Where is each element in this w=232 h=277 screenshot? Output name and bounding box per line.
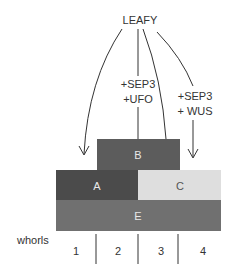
box-a-label: A bbox=[93, 180, 101, 192]
whorls-label: whorls bbox=[16, 234, 49, 246]
whorl-1-label: 1 bbox=[73, 245, 79, 257]
box-e-label: E bbox=[134, 210, 141, 222]
box-b-label: B bbox=[134, 149, 141, 161]
center-cofactor-1: +SEP3 bbox=[121, 78, 156, 90]
whorl-2-label: 2 bbox=[115, 245, 121, 257]
line-leafy-to-right-cofactors bbox=[157, 32, 193, 86]
arrow-leafy-to-a bbox=[84, 29, 122, 154]
right-cofactor-1: +SEP3 bbox=[178, 90, 213, 102]
whorl-4-label: 4 bbox=[200, 245, 206, 257]
whorl-3-label: 3 bbox=[158, 245, 164, 257]
right-cofactor-2: + WUS bbox=[177, 105, 212, 117]
leafy-label: LEAFY bbox=[123, 14, 159, 26]
center-cofactor-2: +UFO bbox=[123, 93, 153, 105]
abc-model-diagram: LEAFY +SEP3 +UFO +SEP3 + WUS B A C E who… bbox=[0, 0, 232, 277]
box-c-label: C bbox=[176, 180, 184, 192]
